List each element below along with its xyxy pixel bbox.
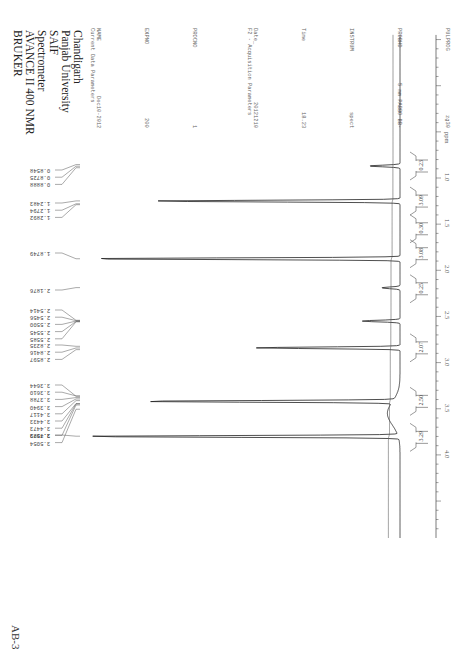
peak-label: 0.8548	[30, 167, 50, 174]
peak-label-connector	[55, 205, 80, 218]
integral-value: 0.30	[418, 223, 424, 234]
peak-label: 3.7973	[30, 432, 50, 439]
peak-label-connector	[55, 345, 80, 346]
peak-label: 1.8749	[30, 250, 50, 257]
integral-value: 3.09	[418, 195, 424, 206]
peak-label-connector	[55, 405, 80, 435]
ppm-tick-label: 2.5	[444, 311, 451, 319]
ppm-tick-label: 4.0	[444, 450, 451, 458]
ppm-tick-label: 3.5	[444, 404, 451, 412]
peak-label-connector	[55, 350, 80, 360]
peak-label: 2.8235	[30, 342, 50, 349]
peak-label: 2.1876	[30, 287, 50, 294]
peak-label-connector	[55, 399, 80, 407]
peak-label-connector	[55, 385, 80, 396]
peak-label-connector	[55, 348, 80, 352]
peak-label: 2.5500	[30, 321, 50, 328]
peak-label-connector	[55, 288, 80, 290]
peak-label: 2.5545	[30, 329, 50, 336]
peak-label: 2.5414	[30, 307, 50, 314]
peak-label: 1.2483	[30, 200, 50, 207]
peak-label-connector	[55, 401, 80, 414]
integral-value: 0.25	[418, 283, 424, 294]
integral-value: 3.29	[418, 431, 424, 442]
peak-label: 1.2892	[30, 214, 50, 221]
peak-label: 3.3940	[30, 404, 50, 411]
peak-label-connector	[55, 392, 80, 396]
peak-label-connector	[55, 253, 80, 259]
integral-value: 0.23	[418, 160, 424, 171]
ppm-tick-label: 1.5	[444, 219, 451, 227]
integral-value: 3.08	[418, 248, 424, 259]
nmr-spectrum	[0, 0, 469, 670]
integral-value: 2.07	[418, 342, 424, 353]
integral-value: 2.50	[418, 395, 424, 406]
peak-label-connector	[55, 201, 80, 203]
peak-label: 2.8597	[30, 356, 50, 363]
peak-label: 3.5054	[30, 440, 50, 447]
peak-label: 3.3644	[30, 382, 50, 389]
ppm-axis-label: ppm	[444, 132, 451, 144]
ppm-tick-label: 1.0	[444, 173, 451, 181]
peak-label-connector	[55, 404, 80, 428]
peak-label: 0.8888	[30, 181, 50, 188]
peak-label: 3.4433	[30, 418, 50, 425]
peak-label-connector	[55, 165, 80, 170]
peak-label: 3.4117	[30, 411, 50, 418]
ppm-tick-label: 2.0	[444, 265, 451, 273]
peak-label: 3.3788	[30, 396, 50, 403]
ppm-tick-label: 3.0	[444, 358, 451, 366]
spectrum-trace	[93, 35, 400, 538]
